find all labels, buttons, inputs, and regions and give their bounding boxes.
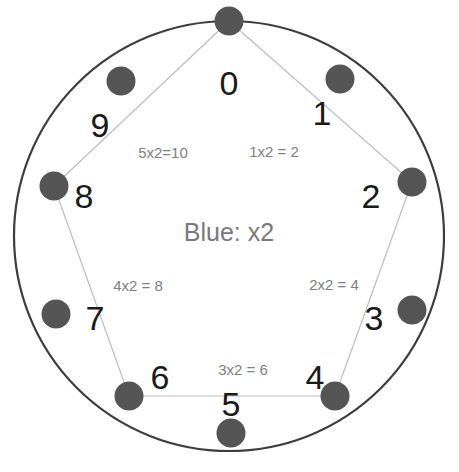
node-label-6: 6: [151, 360, 170, 394]
node-label-2: 2: [362, 179, 381, 213]
node-label-0: 0: [220, 66, 239, 100]
times-table-circle-diagram: 01234567891x2 = 22x2 = 43x2 = 64x2 = 85x…: [0, 0, 459, 472]
node-label-7: 7: [86, 301, 105, 335]
node-dot-4: [321, 382, 350, 411]
center-caption: Blue: x2: [184, 220, 274, 245]
node-label-1: 1: [313, 96, 332, 130]
chord-label-8-0: 5x2=10: [138, 145, 188, 160]
node-label-4: 4: [306, 360, 325, 394]
node-label-8: 8: [75, 179, 94, 213]
node-dot-8: [40, 172, 69, 201]
chord-label-4-6: 3x2 = 6: [218, 362, 268, 377]
node-dot-2: [398, 168, 427, 197]
node-dot-1: [326, 65, 355, 94]
node-dot-7: [42, 300, 71, 329]
chord-label-0-2: 1x2 = 2: [249, 144, 299, 159]
node-dot-0: [215, 7, 244, 36]
node-dot-6: [115, 382, 144, 411]
node-label-5: 5: [222, 387, 241, 421]
chord-label-2-4: 2x2 = 4: [309, 277, 359, 292]
node-dot-3: [398, 296, 427, 325]
node-dot-9: [107, 67, 136, 96]
chord-label-6-8: 4x2 = 8: [113, 278, 163, 293]
node-label-9: 9: [91, 108, 110, 142]
node-label-3: 3: [365, 301, 384, 335]
